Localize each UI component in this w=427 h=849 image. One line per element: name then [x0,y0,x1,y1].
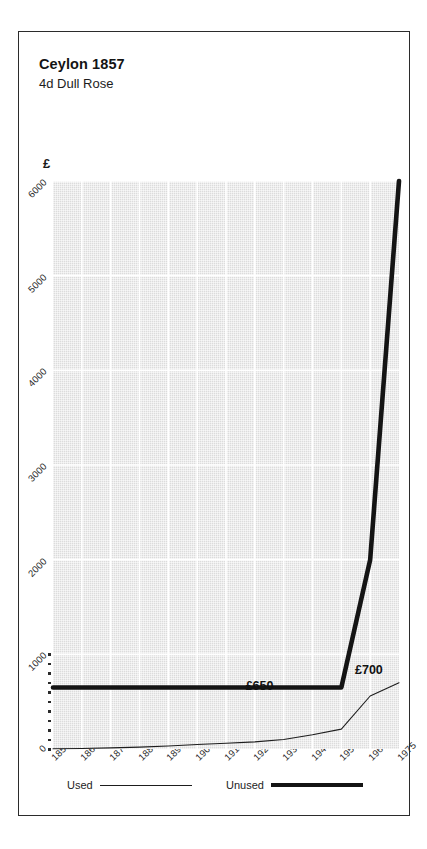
y-axis-minor-tick [48,748,51,751]
y-axis-minor-tick [48,710,51,713]
y-axis-unit-label: £ [43,156,50,171]
chart-card: Ceylon 1857 4d Dull Rose £ 1000200030004… [18,31,410,816]
y-axis-minor-tick [48,729,51,732]
y-axis-tick-label: 2000 [23,555,49,581]
y-axis-tick-label: 6000 [23,177,49,203]
y-axis-tick-label: 3000 [23,461,49,487]
y-axis-tick-label: 1000 [23,650,49,676]
page-title: Ceylon 1857 [39,55,125,73]
y-axis-zero-label: 0 [37,743,49,755]
y-axis-minor-tick [48,682,51,685]
y-axis-minor-tick [48,653,51,656]
y-axis-minor-tick [48,691,51,694]
plot-svg [53,181,399,749]
y-axis-minor-tick [48,672,51,675]
data-value-label: £650 [246,679,274,693]
chart-legend: Used Unused [53,779,399,799]
legend-item-unused: Unused [226,779,363,791]
legend-swatch-unused [271,783,363,787]
title-block: Ceylon 1857 4d Dull Rose [39,55,125,93]
plot-area [53,181,399,749]
legend-swatch-used [100,785,192,786]
chart-subtitle: 4d Dull Rose [39,75,125,93]
legend-label-unused: Unused [226,779,264,791]
y-axis-minor-tick [48,663,51,666]
legend-item-used: Used [67,779,192,791]
y-axis-minor-tick [48,701,51,704]
y-axis-tick-label: 5000 [23,271,49,297]
legend-label-used: Used [67,779,93,791]
y-axis-minor-tick [48,739,51,742]
data-value-label: £700 [355,663,383,677]
y-axis-minor-tick [48,720,51,723]
y-axis-tick-label: 4000 [23,366,49,392]
